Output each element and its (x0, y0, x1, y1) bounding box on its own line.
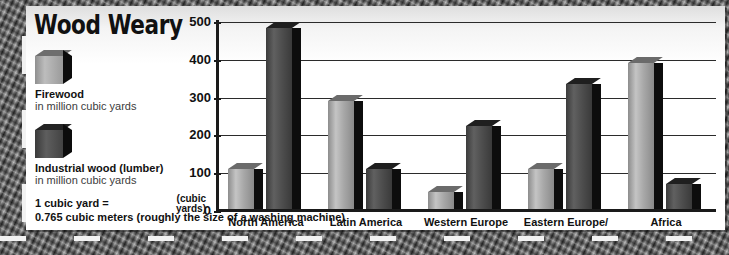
y-axis-tick (214, 211, 221, 213)
bar-side-face (554, 169, 563, 209)
bar-side-face (392, 169, 401, 209)
bar-group (516, 20, 616, 209)
bar-group (216, 20, 316, 209)
cube-side-face (63, 124, 72, 158)
bar-front-face (228, 169, 254, 209)
bar-side-face (454, 192, 463, 209)
bar-chart-plot: North AmericaLatin AmericaWestern Europe… (216, 20, 716, 212)
category-label-line-1: Latin America (316, 216, 416, 228)
bar-firewood (528, 169, 554, 209)
bar-front-face (366, 169, 392, 209)
cube-side-face (63, 50, 72, 84)
bar-lumber (566, 84, 592, 209)
y-axis-tick-label: 100 (189, 165, 211, 180)
bar-side-face (492, 126, 501, 209)
bar-front-face (328, 101, 354, 209)
bar-group (616, 20, 716, 209)
category-label-line-1: Western Europe (416, 216, 516, 228)
legend-sublabel-lumber: in million cubic yards (35, 174, 163, 186)
bar-side-face (592, 84, 601, 209)
bar-lumber (366, 169, 392, 209)
bar-firewood (628, 63, 654, 209)
x-axis-line (216, 209, 716, 212)
y-axis-caption: (cubic yards) (144, 194, 206, 214)
bar-side-face (692, 184, 701, 209)
legend-label-firewood: Firewood (35, 88, 136, 100)
bar-front-face (466, 126, 492, 209)
bar-group (316, 20, 416, 209)
x-axis-category-label: Western Europe (416, 216, 516, 228)
legend-sublabel-firewood: in million cubic yards (35, 100, 136, 112)
light-cube-icon (35, 50, 73, 84)
x-axis-category-label: Eastern Europe/former USSR (516, 216, 616, 230)
bar-side-face (292, 28, 301, 209)
category-label-line-2: former USSR (516, 228, 616, 230)
bar-front-face (266, 28, 292, 209)
category-label-line-1: Eastern Europe/ (516, 216, 616, 228)
y-axis-tick-label: 400 (189, 52, 211, 67)
cube-front-face (35, 130, 63, 158)
x-axis-category-label: North America (216, 216, 316, 228)
category-label-line-1: Africa (616, 216, 716, 228)
page-title: Wood Weary (34, 10, 183, 40)
bar-firewood (328, 101, 354, 209)
legend-item-firewood: Firewood in million cubic yards (35, 50, 136, 112)
cube-front-face (35, 56, 63, 84)
x-axis-category-label: Africa (616, 216, 716, 228)
legend-label-lumber: Industrial wood (lumber) (35, 162, 163, 174)
y-axis-tick-label: 500 (189, 14, 211, 29)
infographic-card: Wood Weary Firewood in million cubic yar… (26, 6, 725, 230)
y-axis-tick-label: 200 (189, 127, 211, 142)
category-label-line-1: North America (216, 216, 316, 228)
bar-front-face (528, 169, 554, 209)
bar-side-face (354, 101, 363, 209)
y-axis-tick-label: 0 (204, 203, 211, 218)
bottom-border-dashes (0, 236, 729, 241)
bar-lumber (666, 184, 692, 209)
x-axis-category-label: Latin America (316, 216, 416, 228)
legend-item-lumber: Industrial wood (lumber) in million cubi… (35, 124, 163, 186)
bar-front-face (666, 184, 692, 209)
bar-side-face (254, 169, 263, 209)
dark-cube-icon (35, 124, 73, 158)
y-axis-tick-label: 300 (189, 90, 211, 105)
bar-front-face (428, 192, 454, 209)
bar-firewood (428, 192, 454, 209)
bar-lumber (266, 28, 292, 209)
bar-group (416, 20, 516, 209)
bar-side-face (654, 63, 663, 209)
bar-lumber (466, 126, 492, 209)
bar-front-face (628, 63, 654, 209)
bar-firewood (228, 169, 254, 209)
bar-front-face (566, 84, 592, 209)
y-axis-caption-line-2: yards) (144, 204, 206, 214)
